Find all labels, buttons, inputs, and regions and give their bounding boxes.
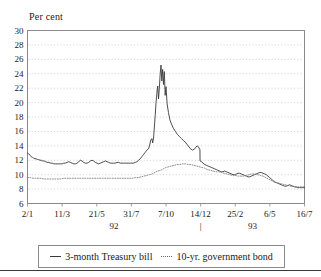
y-tick-label: 24 [15, 69, 25, 79]
year-label: 92 [110, 221, 119, 231]
series-line-tbill [28, 65, 305, 188]
y-tick-label: 30 [15, 26, 25, 36]
y-tick-label: 28 [15, 40, 25, 50]
x-axis-ticks: 2/111/321/531/77/1014/1225/26/516/7 [22, 204, 313, 219]
x-tick-label: 14/12 [190, 209, 211, 219]
y-tick-label: 10 [15, 170, 25, 180]
y-tick-label: 8 [19, 184, 24, 194]
x-tick-label: 2/1 [22, 209, 34, 219]
y-tick-label: 18 [15, 112, 25, 122]
solid-line-icon [50, 256, 61, 257]
y-tick-label: 20 [15, 98, 25, 108]
legend-item-bond: 10-yr. government bond [161, 251, 272, 262]
y-tick-label: 14 [15, 141, 25, 151]
x-tick-label: 16/7 [296, 209, 313, 219]
data-series-group [28, 65, 305, 188]
x-tick-label: 21/5 [89, 209, 106, 219]
interest-rates-figure: Per cent 302826242220181614121086 2/111/… [0, 0, 321, 277]
series-line-bond [28, 164, 305, 187]
legend-label-tbill: 3-month Treasury bill [65, 251, 152, 262]
legend-label-bond: 10-yr. government bond [176, 251, 272, 262]
x-tick-label: 11/3 [54, 209, 70, 219]
y-axis-ticks: 302826242220181614121086 [15, 26, 25, 209]
x-tick-label: 7/10 [158, 209, 175, 219]
chart-plot-area: 302826242220181614121086 2/111/321/531/7… [0, 0, 321, 277]
x-tick-label: 6/5 [264, 209, 276, 219]
y-tick-label: 26 [15, 54, 25, 64]
chart-legend: 3-month Treasury bill 10-yr. government … [38, 245, 285, 268]
dotted-line-icon [161, 256, 172, 257]
x-tick-label: 31/7 [123, 209, 140, 219]
legend-item-tbill: 3-month Treasury bill [50, 251, 152, 262]
year-label: 93 [248, 221, 258, 231]
year-divider: | [200, 221, 202, 231]
y-tick-label: 6 [19, 199, 24, 209]
year-labels-group: 9293| [110, 221, 258, 231]
y-tick-label: 22 [15, 83, 24, 93]
figure-bottom-rule [0, 270, 321, 271]
line-chart-svg: 302826242220181614121086 2/111/321/531/7… [0, 0, 321, 240]
x-tick-label: 25/2 [227, 209, 243, 219]
y-tick-label: 16 [15, 126, 25, 136]
y-tick-label: 12 [15, 155, 24, 165]
